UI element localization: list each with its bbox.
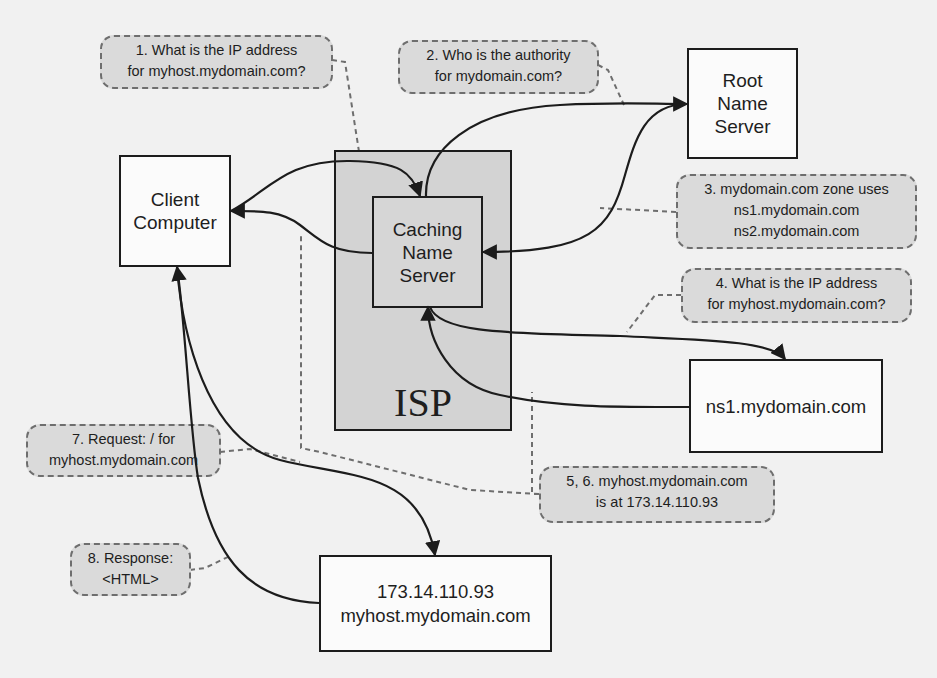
callout-step-4: 4. What is the IP address for myhost.myd… — [681, 268, 912, 323]
caching-name-server-label: Caching Name Server — [393, 218, 463, 287]
callout-step-5-6: 5, 6. myhost.mydomain.com is at 173.14.1… — [539, 466, 775, 523]
web-host-ip: 173.14.110.93 — [377, 580, 494, 604]
arrow-step-3 — [483, 104, 687, 252]
web-host-node: 173.14.110.93 myhost.mydomain.com — [319, 555, 552, 652]
callout-step-2: 2. Who is the authority for mydomain.com… — [398, 40, 599, 94]
client-computer-label: Client Computer — [133, 188, 216, 234]
leader-step-7 — [220, 449, 300, 462]
ns1-label: ns1.mydomain.com — [706, 395, 866, 418]
callout-step-3: 3. mydomain.com zone uses ns1.mydomain.c… — [676, 174, 917, 249]
isp-label: ISP — [336, 381, 510, 425]
dns-diagram: ISP Client Computer Caching Name Server … — [0, 0, 937, 678]
caching-name-server-node: Caching Name Server — [372, 196, 483, 308]
ns1-node: ns1.mydomain.com — [689, 359, 883, 453]
leader-step-2 — [598, 65, 624, 105]
callout-step-1: 1. What is the IP address for myhost.myd… — [100, 35, 333, 89]
leader-step-3 — [600, 208, 676, 212]
root-name-server-label: Root Name Server — [715, 69, 771, 138]
leader-step-1 — [332, 60, 360, 158]
client-computer-node: Client Computer — [119, 155, 231, 267]
leader-step-5 — [532, 392, 539, 494]
web-host-name: myhost.mydomain.com — [340, 604, 530, 628]
root-name-server-node: Root Name Server — [687, 48, 798, 159]
leader-step-4 — [627, 295, 681, 332]
callout-step-7: 7. Request: / for myhost.mydomain.com — [26, 424, 221, 477]
callout-step-8: 8. Response: <HTML> — [70, 543, 191, 596]
leader-step-8 — [190, 556, 230, 570]
